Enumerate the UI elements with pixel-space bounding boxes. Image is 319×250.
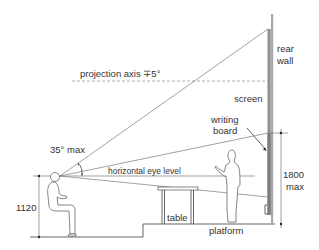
seated-viewer [48,173,76,237]
label-writing-board-1: writing [210,114,238,125]
standing-lecturer [215,150,240,222]
label-writing-board-2: board [213,125,237,136]
writing-board-leader [247,128,267,151]
label-projection-axis: projection axis ∓5° [80,68,161,79]
screen-and-writing-board [265,29,271,215]
label-screen: screen [234,93,263,104]
label-angle: 35° max [50,144,85,155]
label-rear-wall-2: wall [276,55,293,66]
seated-height-dimension [38,175,40,238]
label-eye-level: horizontal eye level [108,166,181,176]
lecture-room-section-diagram: rear wall projection axis ∓5° screen wri… [0,0,319,250]
label-board-height-1: 1800 [283,169,304,180]
label-rear-wall-1: rear [277,43,294,54]
label-seated-height: 1120 [16,202,36,213]
label-platform: platform [209,225,243,236]
label-table: table [167,212,188,223]
rear-wall [271,14,273,224]
label-board-height-2: max [286,181,304,192]
